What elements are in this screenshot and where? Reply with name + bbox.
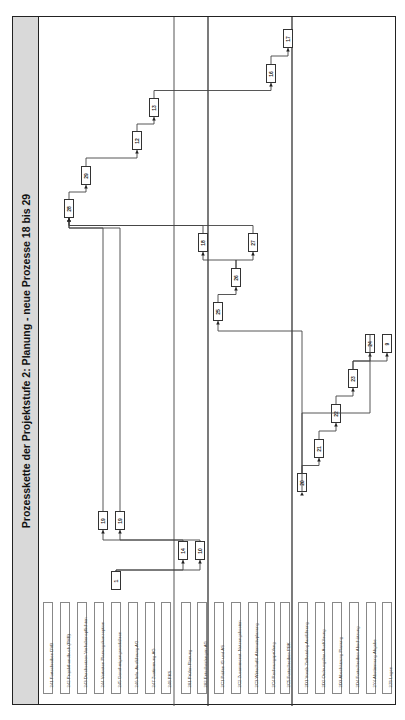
process-number: 22 (333, 411, 339, 417)
process-box-13[interactable]: 13 (149, 98, 159, 117)
process-box-21[interactable]: 21 (314, 439, 324, 458)
lane-label-2C3: 2C3 Wirtschaftl. Alternativplanung (248, 602, 258, 694)
lane-label-text: 242 Projekthandbuch (PHB) (66, 634, 71, 688)
lane-label-247: 247 Zustimmung AG (145, 602, 155, 694)
process-number: 14 (180, 548, 186, 554)
lane-label-243: 243 Durchsetzen Vorhabenspflichten (77, 602, 87, 694)
process-box-28[interactable]: 28 (64, 199, 74, 218)
diagram-frame: Prozesskette der Projektstufe 2: Planung… (12, 16, 396, 705)
process-number: 1 (113, 579, 119, 582)
lane-label-246: 246 Info. Ausführung AG (128, 602, 138, 694)
lane-label-text: 246 Info. Ausführung AG (134, 641, 139, 688)
lane-label-2C2: 2C2 Zusammenst. Nutzungskosten (231, 602, 241, 694)
process-number: 9 (384, 342, 390, 345)
process-number: 23 (350, 376, 356, 382)
process-box-1[interactable]: 1 (111, 571, 121, 590)
lane-label-2D3: 2D3 Abschätzung Planung (332, 602, 342, 694)
lane-label-text: 2C3 Wirtschaftl. Alternativplanung (254, 623, 259, 688)
process-box-25[interactable]: 25 (213, 302, 223, 321)
process-box-22[interactable]: 22 (331, 404, 341, 423)
lane-label-2C1: 2C1 Prüfen IG und AS (214, 602, 224, 694)
lane-label-text: 282 Entscheidungen AG (203, 641, 208, 687)
process-number: 25 (215, 309, 221, 315)
lane-label-text: 2C2 Zusammenst. Nutzungskosten (237, 620, 242, 687)
lane-label-text: 2C5 Fortschreiben PBK (286, 642, 291, 687)
lane-label-2C5: 2C5 Fortschreiben PBK (280, 602, 290, 694)
process-number: 20 (299, 480, 305, 486)
process-box-14[interactable]: 14 (178, 541, 188, 560)
lane-label-281: 281 Prüfen Planung (181, 602, 191, 694)
process-chain-area: 241 Fortschreiben DVB242 Projekthandbuch… (39, 17, 395, 704)
process-box-10[interactable]: 10 (195, 541, 205, 560)
process-number: 24 (367, 341, 373, 347)
lane-label-text: 281 Prüfen Planung (187, 650, 192, 688)
process-number: 19 (117, 518, 123, 524)
diagram-title: Prozesskette der Projektstufe 2: Planung… (20, 193, 32, 527)
lane-label-text: 245 Genehmigungsverfahren (117, 632, 122, 688)
lane-label-text: 2Z6 Lagen (388, 667, 393, 688)
process-number: 17 (285, 36, 291, 42)
process-number: 21 (316, 446, 322, 452)
process-box-17[interactable]: 17 (283, 29, 293, 48)
process-box-19[interactable]: 19 (115, 511, 125, 530)
process-box-16[interactable]: 16 (266, 64, 276, 83)
process-number: 16 (268, 71, 274, 77)
lane-label-text: 2D2 Ordnungsbau Ausführung (321, 629, 326, 687)
lane-label-2Z6: 2Z6 Lagen (382, 602, 392, 694)
lane-label-241: 241 Fortschreiben DVB (43, 602, 53, 694)
lane-label-text: 2D4 Fortschreiben Abschätzung (355, 626, 360, 687)
lane-label-245: 245 Genehmigungsverfahren (111, 602, 121, 694)
process-number: 26 (233, 275, 239, 281)
process-box-18[interactable]: 18 (198, 233, 208, 252)
process-number: 18 (200, 240, 206, 246)
process-box-26[interactable]: 26 (231, 268, 241, 287)
lane-label-248: 248 PKS (161, 602, 171, 694)
process-box-19[interactable]: 19 (98, 511, 108, 530)
process-box-23[interactable]: 23 (348, 369, 358, 388)
process-box-12[interactable]: 12 (132, 131, 142, 150)
process-number: 29 (83, 173, 89, 179)
lane-label-2Y4: 2Y4 Abstimmung Abgabe (366, 602, 376, 694)
lane-label-text: 2C4 Rechnungsprüfung (271, 642, 276, 687)
process-box-27[interactable]: 27 (248, 233, 258, 252)
process-number: 19 (100, 518, 106, 524)
lane-label-text: 2C1 Prüfen IG und AS (220, 645, 225, 688)
lane-label-2D2: 2D2 Ordnungsbau Ausführung (315, 602, 325, 694)
process-box-20[interactable]: 20 (297, 473, 307, 492)
lane-label-text: 2Y4 Abstimmung Abgabe (372, 639, 377, 687)
lane-label-text: 2D3 Abschätzung Planung (338, 637, 343, 688)
lane-label-text: 2D1 Vorab-Zielkatalog Ausführung (304, 622, 309, 687)
process-number: 28 (66, 206, 72, 212)
lane-label-text: 243 Durchsetzen Vorhabenspflichten (83, 617, 88, 687)
process-box-29[interactable]: 29 (81, 166, 91, 185)
title-bar: Prozesskette der Projektstufe 2: Planung… (13, 17, 39, 704)
lane-label-text: 247 Zustimmung AG (151, 648, 156, 687)
process-number: 10 (197, 548, 203, 554)
process-box-24[interactable]: 24 (365, 334, 375, 353)
process-number: 12 (134, 138, 140, 144)
process-box-9[interactable]: 9 (382, 334, 392, 353)
lane-label-2D4: 2D4 Fortschreiben Abschätzung (349, 602, 359, 694)
lane-label-2D1: 2D1 Vorab-Zielkatalog Ausführung (298, 602, 308, 694)
lane-label-2C4: 2C4 Rechnungsprüfung (265, 602, 275, 694)
lane-label-242: 242 Projekthandbuch (PHB) (60, 602, 70, 694)
lane-label-244: 244 Vertreten Planungskonzeption (94, 602, 104, 694)
lane-label-text: 244 Vertreten Planungskonzeption (100, 622, 105, 688)
lane-label-text: 241 Fortschreiben DVB (49, 643, 54, 688)
lane-label-282: 282 Entscheidungen AG (197, 602, 207, 694)
process-number: 27 (250, 240, 256, 246)
lane-label-text: 248 PKS (167, 671, 172, 688)
process-number: 13 (151, 105, 157, 111)
